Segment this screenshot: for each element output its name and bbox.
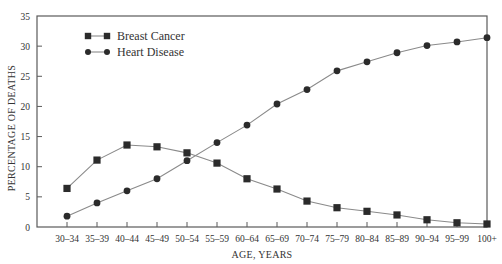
circle-marker-icon <box>274 101 281 108</box>
y-tick-label: 20 <box>21 102 31 112</box>
legend-label: Breast Cancer <box>117 29 185 43</box>
square-marker-icon <box>303 197 310 204</box>
square-marker-icon <box>333 204 340 211</box>
circle-marker-icon <box>214 139 221 146</box>
circle-marker-icon <box>94 199 101 206</box>
series-layer <box>63 34 490 227</box>
circle-marker-icon <box>484 34 491 41</box>
square-marker-icon <box>453 219 460 226</box>
square-marker-icon <box>423 216 430 223</box>
x-tick-label: 75–79 <box>325 234 349 244</box>
circle-marker-icon <box>424 42 431 49</box>
x-tick-label: 80–84 <box>355 234 379 244</box>
square-marker-icon <box>273 185 280 192</box>
circle-marker-icon <box>124 187 131 194</box>
circle-marker-icon <box>244 122 251 129</box>
series-breast-cancer <box>63 141 490 227</box>
square-marker-icon <box>85 33 91 39</box>
y-tick-label: 15 <box>21 132 31 142</box>
square-marker-icon <box>63 185 70 192</box>
circle-marker-icon <box>85 49 91 55</box>
square-marker-icon <box>363 208 370 215</box>
circle-marker-icon <box>304 86 311 93</box>
y-tick-label: 25 <box>21 72 31 82</box>
legend: Breast CancerHeart Disease <box>85 29 185 59</box>
x-tick-label: 50–54 <box>175 234 199 244</box>
y-axis-title: PERCENTAGE OF DEATHS <box>6 65 17 191</box>
y-axis: 05101520253035 <box>21 12 43 233</box>
x-axis-title: AGE, YEARS <box>232 249 293 260</box>
x-axis: 30–3435–3940–4445–4950–5455–5960–6465–69… <box>55 222 497 244</box>
y-tick-label: 30 <box>21 42 31 52</box>
legend-label: Heart Disease <box>117 45 184 59</box>
x-tick-label: 40–44 <box>115 234 139 244</box>
circle-marker-icon <box>334 67 341 74</box>
x-tick-label: 90–94 <box>415 234 439 244</box>
square-marker-icon <box>104 33 110 39</box>
x-tick-label: 60–64 <box>235 234 259 244</box>
x-tick-label: 45–49 <box>145 234 169 244</box>
square-marker-icon <box>213 159 220 166</box>
circle-marker-icon <box>454 39 461 46</box>
circle-marker-icon <box>394 49 401 56</box>
x-tick-label: 95–99 <box>445 234 469 244</box>
y-tick-label: 10 <box>21 162 31 172</box>
square-marker-icon <box>183 149 190 156</box>
x-tick-label: 70–74 <box>295 234 319 244</box>
square-marker-icon <box>93 156 100 163</box>
legend-item-breast-cancer: Breast Cancer <box>85 29 185 43</box>
y-tick-label: 35 <box>21 12 31 22</box>
x-tick-label: 30–34 <box>55 234 79 244</box>
circle-marker-icon <box>184 157 191 164</box>
circle-marker-icon <box>154 175 161 182</box>
line-chart: 05101520253035 30–3435–3940–4445–4950–54… <box>0 0 502 264</box>
square-marker-icon <box>483 220 490 227</box>
y-tick-label: 5 <box>25 192 30 202</box>
circle-marker-icon <box>364 58 371 65</box>
square-marker-icon <box>243 175 250 182</box>
circle-marker-icon <box>64 213 71 220</box>
square-marker-icon <box>153 143 160 150</box>
x-tick-label: 55–59 <box>205 234 229 244</box>
square-marker-icon <box>393 211 400 218</box>
x-tick-label: 85–89 <box>385 234 409 244</box>
x-tick-label: 65–69 <box>265 234 289 244</box>
square-marker-icon <box>123 141 130 148</box>
series-line <box>67 145 487 224</box>
x-tick-label: 100+ <box>477 234 497 244</box>
circle-marker-icon <box>104 49 110 55</box>
y-tick-label: 0 <box>25 223 30 233</box>
x-tick-label: 35–39 <box>85 234 109 244</box>
legend-item-heart-disease: Heart Disease <box>85 45 184 59</box>
